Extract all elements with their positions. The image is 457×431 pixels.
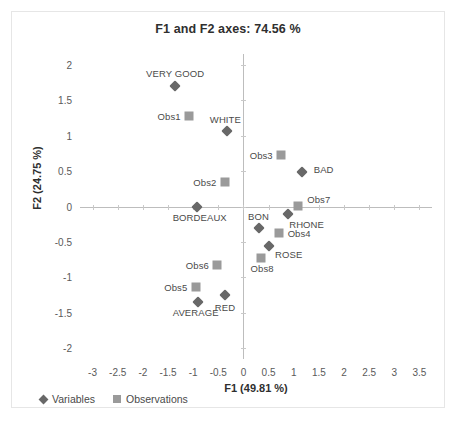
y-tick: [241, 100, 246, 101]
y-tick-label: -1: [38, 272, 72, 283]
variable-point-marker[interactable]: [282, 208, 293, 219]
x-tick-label: -1: [189, 367, 198, 378]
x-tick: [218, 205, 219, 210]
y-tick-label: 0: [38, 201, 72, 212]
y-tick-label: -0.5: [38, 236, 72, 247]
x-tick-label: -3: [88, 367, 97, 378]
chart-legend: Variables Observations: [40, 393, 188, 405]
variable-point-marker[interactable]: [192, 296, 203, 307]
y-tick-label: -2: [38, 343, 72, 354]
variable-point-label: WHITE: [210, 114, 241, 125]
x-tick: [369, 205, 370, 210]
variable-point-label: BORDEAUX: [173, 212, 227, 223]
observation-point-label: Obs2: [193, 177, 216, 188]
y-tick-label: 0.5: [38, 166, 72, 177]
variable-point-label: AVERAGE: [173, 307, 219, 318]
observation-point-label: Obs4: [288, 228, 311, 239]
observation-point-marker[interactable]: [293, 201, 302, 210]
observation-point-marker[interactable]: [257, 253, 266, 262]
variable-point-label: BAD: [314, 164, 334, 175]
square-marker-icon: [113, 395, 121, 403]
observation-point-label: Obs3: [250, 150, 273, 161]
x-tick: [93, 205, 94, 210]
x-tick: [394, 205, 395, 210]
y-tick-label: 1: [38, 130, 72, 141]
x-axis-line: [80, 207, 432, 208]
legend-label-observations: Observations: [126, 393, 188, 405]
observation-point-marker[interactable]: [277, 151, 286, 160]
x-tick-label: 0.5: [262, 367, 276, 378]
y-tick: [241, 277, 246, 278]
x-tick-label: 0: [241, 367, 247, 378]
x-tick-label: -2.5: [109, 367, 126, 378]
y-tick-label: 1.5: [38, 95, 72, 106]
x-tick-label: 1.5: [312, 367, 326, 378]
variable-point-marker[interactable]: [263, 240, 274, 251]
x-tick-label: -2: [138, 367, 147, 378]
observation-point-marker[interactable]: [191, 283, 200, 292]
variable-point-marker[interactable]: [169, 80, 180, 91]
variable-point-marker[interactable]: [219, 289, 230, 300]
x-tick-label: 3: [392, 367, 398, 378]
x-tick-label: 2: [341, 367, 347, 378]
observation-point-marker[interactable]: [275, 229, 284, 238]
observation-point-marker[interactable]: [185, 112, 194, 121]
observation-point-marker[interactable]: [220, 178, 229, 187]
variable-point-marker[interactable]: [222, 125, 233, 136]
y-tick: [241, 313, 246, 314]
observation-point-label: Obs7: [307, 194, 330, 205]
x-tick-label: -1.5: [159, 367, 176, 378]
legend-item-variables[interactable]: Variables: [40, 393, 95, 405]
x-tick: [168, 205, 169, 210]
scatter-plot-area: VERY GOODWHITEBORDEAUXBADRHONEBONROSEAVE…: [80, 54, 432, 359]
legend-item-observations[interactable]: Observations: [113, 393, 188, 405]
x-tick-label: 3.5: [412, 367, 426, 378]
variable-point-label: VERY GOOD: [146, 68, 204, 79]
variable-point-label: RED: [215, 302, 235, 313]
variable-point-marker[interactable]: [253, 222, 264, 233]
variable-point-marker[interactable]: [296, 167, 307, 178]
observation-point-marker[interactable]: [213, 261, 222, 270]
x-tick: [269, 205, 270, 210]
observation-point-label: Obs6: [186, 260, 209, 271]
y-tick: [241, 207, 246, 208]
y-tick: [241, 348, 246, 349]
variable-point-label: ROSE: [275, 249, 302, 260]
observation-point-label: Obs1: [158, 111, 181, 122]
legend-label-variables: Variables: [52, 393, 95, 405]
x-tick: [143, 205, 144, 210]
chart-card: F1 and F2 axes: 74.56 % F2 (24.75 %) F1 …: [11, 11, 445, 408]
x-tick: [118, 205, 119, 210]
x-tick: [419, 205, 420, 210]
observation-point-label: Obs8: [251, 263, 274, 274]
diamond-marker-icon: [39, 394, 49, 404]
x-tick-label: 1: [291, 367, 297, 378]
observation-point-label: Obs5: [164, 282, 187, 293]
y-tick-label: -1.5: [38, 307, 72, 318]
variable-point-label: BON: [248, 211, 269, 222]
y-tick: [241, 242, 246, 243]
y-tick: [241, 65, 246, 66]
x-tick-label: -0.5: [210, 367, 227, 378]
chart-title: F1 and F2 axes: 74.56 %: [12, 22, 444, 36]
x-tick-label: 2.5: [362, 367, 376, 378]
x-tick: [344, 205, 345, 210]
variable-point-marker[interactable]: [191, 201, 202, 212]
y-tick-label: 2: [38, 59, 72, 70]
y-tick: [241, 136, 246, 137]
y-tick: [241, 171, 246, 172]
